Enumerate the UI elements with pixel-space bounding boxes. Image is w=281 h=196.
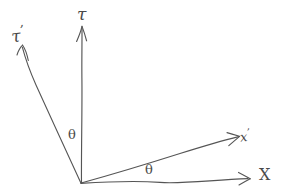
coordinate-axes-diagram: τ τ’ X x’ θ θ bbox=[0, 0, 281, 196]
tau-axis-arrowhead-left bbox=[77, 26, 82, 41]
tau-prime-axis-line bbox=[22, 47, 81, 183]
tau-axis bbox=[77, 26, 87, 183]
tau-prime-axis-arrowhead-left bbox=[17, 45, 23, 55]
tau-prime-axis bbox=[17, 45, 81, 183]
x-axis-label: X bbox=[259, 167, 270, 183]
x-prime-axis-arrowhead-upper bbox=[227, 133, 240, 137]
tau-axis-line bbox=[81, 29, 82, 183]
tau-axis-label: τ bbox=[77, 6, 86, 23]
sketch-canvas bbox=[0, 0, 281, 196]
x-prime-axis bbox=[81, 133, 239, 183]
tau-axis-arrowhead-right bbox=[82, 26, 87, 40]
theta-label-lower: θ bbox=[145, 163, 153, 176]
x-axis-line bbox=[81, 179, 248, 184]
x-prime-axis-line bbox=[81, 137, 238, 183]
x-axis bbox=[81, 172, 250, 185]
x-axis-arrowhead-lower bbox=[239, 179, 250, 185]
x-prime-axis-label: x’ bbox=[239, 127, 251, 143]
x-axis-arrowhead-upper bbox=[239, 172, 251, 178]
theta-label-upper: θ bbox=[68, 128, 76, 141]
tau-prime-axis-label: τ’ bbox=[10, 23, 26, 45]
